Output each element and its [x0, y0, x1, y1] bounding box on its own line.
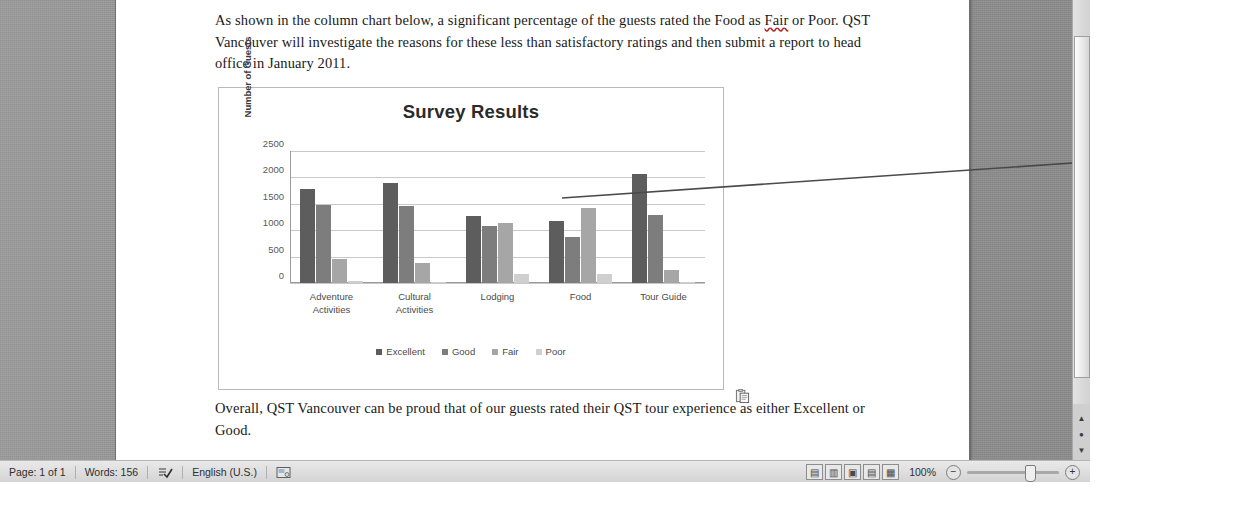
chart-title: Survey Results — [219, 101, 723, 123]
legend-item-fair[interactable]: Fair — [492, 346, 518, 357]
chart-bar-good[interactable] — [648, 215, 663, 283]
y-tick-label: 0 — [246, 270, 284, 282]
legend-label: Good — [452, 346, 475, 357]
legend-label: Poor — [546, 346, 566, 357]
select-browse-object-icon[interactable]: ● — [1075, 428, 1088, 441]
chart-bar-group[interactable] — [373, 151, 456, 283]
macro-status[interactable] — [267, 461, 300, 483]
chart-bar-good[interactable] — [316, 205, 331, 283]
chart-x-axis-labels: AdventureActivitiesCulturalActivitiesLod… — [290, 291, 705, 316]
zoom-in-button[interactable]: + — [1065, 465, 1080, 480]
survey-results-chart[interactable]: Survey Results Number of Guests 25002000… — [218, 87, 724, 390]
y-tick-label: 1500 — [246, 191, 284, 203]
chart-bar-poor[interactable] — [431, 282, 446, 283]
chart-bar-good[interactable] — [399, 206, 414, 283]
y-tick-label: 2000 — [246, 164, 284, 176]
x-axis-label: Tour Guide — [622, 291, 705, 316]
chart-bar-poor[interactable] — [597, 274, 612, 283]
paragraph-bottom[interactable]: Overall, QST Vancouver can be proud that… — [215, 398, 875, 441]
scrollbar-thumb[interactable] — [1074, 36, 1090, 378]
outline-view-button[interactable]: ▤ — [863, 464, 880, 480]
chart-bar-good[interactable] — [565, 237, 580, 283]
proofing-status[interactable] — [148, 461, 182, 483]
chart-gridline — [290, 283, 705, 284]
legend-item-good[interactable]: Good — [442, 346, 475, 357]
view-mode-buttons[interactable]: ▤▥▣▤▦ — [806, 464, 899, 480]
legend-item-excellent[interactable]: Excellent — [376, 346, 425, 357]
paragraph-top[interactable]: As shown in the column chart below, a si… — [215, 10, 875, 75]
chart-y-axis-ticks: 25002000150010005000 — [246, 144, 284, 290]
page-shadow — [970, 0, 973, 460]
legend-label: Excellent — [386, 346, 425, 357]
legend-item-poor[interactable]: Poor — [536, 346, 566, 357]
y-tick-label: 500 — [246, 244, 284, 256]
page-indicator[interactable]: Page: 1 of 1 — [0, 461, 75, 483]
chart-bar-excellent[interactable] — [466, 216, 481, 283]
chart-y-axis-label: Number of Guests — [242, 7, 256, 147]
legend-swatch-icon — [536, 349, 542, 355]
chart-legend[interactable]: ExcellentGoodFairPoor — [219, 346, 723, 357]
legend-swatch-icon — [442, 349, 448, 355]
chart-bar-fair[interactable] — [332, 259, 347, 283]
chart-bar-poor[interactable] — [514, 274, 529, 284]
chart-bar-poor[interactable] — [348, 281, 363, 283]
vertical-scrollbar[interactable]: ▲ ● ▼ — [1072, 0, 1090, 460]
chart-bar-group[interactable] — [456, 151, 539, 283]
x-axis-label: Lodging — [456, 291, 539, 316]
web-layout-view-button[interactable]: ▣ — [844, 464, 861, 480]
macro-record-icon — [276, 466, 291, 479]
full-screen-reading-view-button[interactable]: ▥ — [825, 464, 842, 480]
legend-label: Fair — [502, 346, 518, 357]
chart-bar-fair[interactable] — [415, 263, 430, 283]
browse-next-icon[interactable]: ▼ — [1075, 444, 1088, 457]
chart-bar-fair[interactable] — [498, 223, 513, 283]
y-tick-label: 1000 — [246, 217, 284, 229]
language-indicator[interactable]: English (U.S.) — [183, 461, 266, 483]
chart-bar-excellent[interactable] — [300, 189, 315, 284]
status-bar: Page: 1 of 1 Words: 156 English (U.S.) ▤… — [0, 460, 1090, 483]
browse-previous-icon[interactable]: ▲ — [1075, 412, 1088, 425]
status-bar-right: ▤▥▣▤▦ 100% − + — [806, 464, 1090, 480]
spelling-check-icon — [157, 466, 173, 479]
legend-swatch-icon — [376, 349, 382, 355]
chart-bar-excellent[interactable] — [549, 221, 564, 283]
chart-bar-poor[interactable] — [680, 282, 695, 283]
x-axis-label: CulturalActivities — [373, 291, 456, 316]
x-axis-label: AdventureActivities — [290, 291, 373, 316]
chart-bar-fair[interactable] — [581, 208, 596, 283]
paragraph-top-pre: As shown in the column chart below, a si… — [215, 12, 765, 28]
draft-view-button[interactable]: ▦ — [882, 464, 899, 480]
chart-bar-group[interactable] — [290, 151, 373, 283]
chart-bar-fair[interactable] — [664, 270, 679, 283]
callout-leader-line — [560, 150, 1130, 200]
bottom-margin — [0, 482, 1238, 506]
y-tick-label: 2500 — [246, 138, 284, 150]
right-margin — [1090, 0, 1238, 506]
print-layout-view-button[interactable]: ▤ — [806, 464, 823, 480]
chart-bar-good[interactable] — [482, 226, 497, 283]
word-count[interactable]: Words: 156 — [76, 461, 148, 483]
zoom-slider[interactable] — [967, 471, 1059, 474]
page-left-edge — [115, 0, 116, 460]
chart-bar-excellent[interactable] — [383, 183, 398, 283]
zoom-slider-handle[interactable] — [1025, 465, 1036, 482]
zoom-level[interactable]: 100% — [905, 466, 940, 478]
spelling-flagged-word[interactable]: Fair — [765, 12, 789, 28]
zoom-out-button[interactable]: − — [946, 465, 961, 480]
legend-swatch-icon — [492, 349, 498, 355]
x-axis-label: Food — [539, 291, 622, 316]
word-document-screenshot: As shown in the column chart below, a si… — [0, 0, 1238, 506]
